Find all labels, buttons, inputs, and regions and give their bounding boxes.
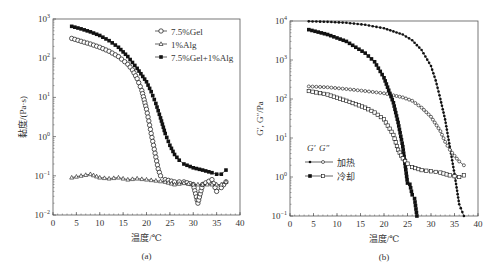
x-tick-label: 30 [189, 218, 199, 228]
chart-panel-b: 051015202530354010−1100101102103104温度/℃(… [255, 15, 483, 262]
x-tick-label: 25 [403, 219, 413, 229]
y-tick-label: 101 [38, 91, 50, 102]
x-tick-label: 5 [74, 218, 79, 228]
x-tick-label: 20 [380, 219, 390, 229]
y-tick-label: 10−1 [272, 210, 287, 221]
x-tick-label: 0 [288, 219, 293, 229]
y-axis-title: 黏度/(Pa·s) [17, 96, 28, 138]
y-tick-label: 104 [275, 15, 287, 26]
legend-label: 1%Alg [171, 40, 197, 50]
y-tick-label: 100 [38, 131, 50, 142]
x-tick-label: 10 [333, 219, 343, 229]
x-tick-label: 25 [165, 218, 175, 228]
legend: 7.5%Gel1%Alg7.5%Gel+1%Alg [155, 27, 234, 63]
y-tick-label: 101 [275, 132, 287, 143]
chart-panel-a: 051015202530354010−210−1100101102103温度/℃… [17, 13, 245, 261]
legend: G′G″加热冷却 [305, 143, 355, 182]
x-tick-label: 5 [311, 219, 316, 229]
x-tick-label: 35 [212, 218, 222, 228]
y-tick-label: 10−1 [35, 170, 50, 181]
legend-label: 冷却 [337, 171, 355, 182]
x-tick-label: 0 [51, 218, 56, 228]
legend-label: 加热 [337, 157, 355, 168]
series-G- [307, 28, 419, 218]
x-tick-label: 35 [450, 219, 460, 229]
y-tick-label: 10−2 [35, 209, 50, 220]
panel-label: (b) [379, 252, 390, 262]
x-tick-label: 15 [356, 219, 366, 229]
series-G- [308, 20, 466, 217]
x-tick-label: 15 [119, 218, 129, 228]
legend-label: 7.5%Gel+1%Alg [171, 53, 234, 63]
svg-text:G′: G′ [307, 143, 316, 153]
chart-figure: 051015202530354010−210−1100101102103温度/℃… [0, 0, 494, 274]
x-axis-title: 温度/℃ [131, 232, 162, 243]
y-tick-label: 103 [38, 13, 50, 24]
x-tick-label: 10 [95, 218, 105, 228]
y-tick-label: 103 [275, 54, 287, 65]
x-axis-title: 温度/℃ [369, 233, 400, 244]
svg-text:G″: G″ [319, 143, 329, 153]
legend-label: 7.5%Gel [171, 27, 203, 37]
x-tick-label: 30 [427, 219, 437, 229]
x-tick-label: 20 [142, 218, 152, 228]
panel-label: (a) [142, 251, 152, 261]
x-tick-label: 40 [236, 218, 246, 228]
y-axis-title: G′, G″/Pa [255, 101, 265, 136]
y-tick-label: 100 [275, 171, 287, 182]
y-tick-label: 102 [275, 93, 287, 104]
x-tick-label: 40 [474, 219, 484, 229]
y-tick-label: 102 [38, 52, 50, 63]
